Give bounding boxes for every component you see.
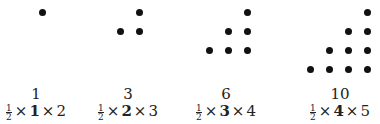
dot <box>326 66 333 73</box>
triangular-value-2: 3 <box>78 86 178 102</box>
formula-4: 12×4×5 <box>290 102 380 121</box>
dot <box>117 28 124 35</box>
dot <box>364 66 371 73</box>
one-half-fraction: 12 <box>310 104 316 121</box>
dot <box>39 9 46 16</box>
dot <box>136 9 143 16</box>
one-half-fraction: 12 <box>196 104 202 121</box>
dot <box>345 66 352 73</box>
dot <box>136 28 143 35</box>
formula-3: 12×3×4 <box>176 102 276 121</box>
dot <box>244 47 251 54</box>
dot <box>345 28 352 35</box>
one-half-fraction: 12 <box>6 104 12 121</box>
formula-1: 12×1×2 <box>0 102 86 121</box>
dot <box>225 47 232 54</box>
dot <box>307 66 314 73</box>
dot <box>206 47 213 54</box>
triangular-value-1: 1 <box>0 86 86 102</box>
triangular-value-4: 10 <box>290 86 380 102</box>
dot <box>244 9 251 16</box>
triangular-value-3: 6 <box>176 86 276 102</box>
dot <box>364 28 371 35</box>
dot <box>345 47 352 54</box>
dot <box>364 47 371 54</box>
one-half-fraction: 12 <box>98 104 104 121</box>
formula-2: 12×2×3 <box>78 102 178 121</box>
dot <box>326 47 333 54</box>
dot <box>225 28 232 35</box>
dot <box>364 9 371 16</box>
dot <box>244 28 251 35</box>
